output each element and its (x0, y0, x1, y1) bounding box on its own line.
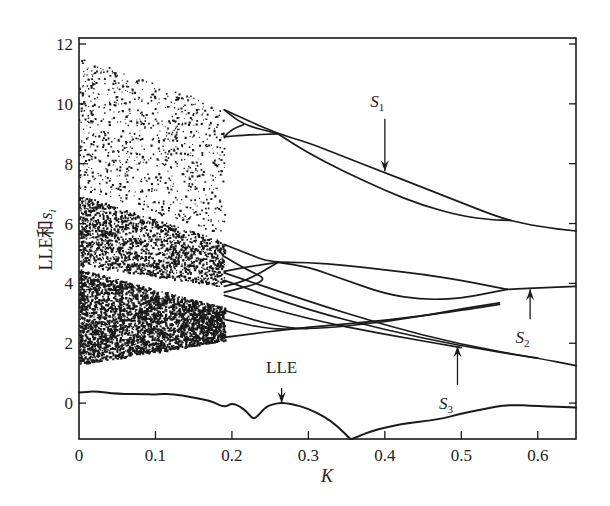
x-axis: 00.10.20.30.40.50.6 (75, 431, 549, 465)
y-axis-title: LLE和si (36, 209, 58, 270)
annotations: S1S2S3LLE (266, 92, 534, 415)
plot-frame (79, 38, 576, 439)
y-tick-label: 6 (65, 215, 74, 234)
annotation-label: S2 (515, 328, 529, 349)
chaos-points (79, 59, 227, 364)
curve-s1-inner-loop-lower (224, 134, 277, 137)
x-tick-label: 0.1 (145, 446, 166, 465)
svg-text:LLE和si: LLE和si (36, 209, 58, 270)
curve-s2-upper-branch (224, 245, 507, 290)
y-tick-label: 4 (65, 274, 74, 293)
y-tick-label: 2 (65, 334, 74, 353)
annotation-label: S3 (439, 394, 454, 415)
x-tick-label: 0.6 (527, 446, 548, 465)
y-axis-title-var: s (36, 213, 56, 220)
x-tick-label: 0.3 (298, 446, 319, 465)
y-axis: 024681012 (56, 35, 576, 413)
x-axis-title: K (320, 466, 334, 486)
y-tick-label: 0 (65, 394, 74, 413)
annotation-label: S1 (370, 92, 384, 113)
y-tick-label: 12 (56, 35, 73, 54)
y-axis-title-main: LLE和 (36, 220, 56, 271)
curve-s2-merged (507, 286, 576, 289)
curve-lle-right (352, 405, 576, 439)
bifurcation-curves (79, 110, 576, 439)
annotation-label: LLE (266, 358, 297, 377)
bifurcation-chart: S1S2S3LLE 00.10.20.30.40.50.6 024681012 … (0, 0, 610, 506)
chaotic-scatter-region (79, 59, 227, 364)
x-tick-label: 0.5 (451, 446, 472, 465)
curve-s1-merged (511, 221, 576, 232)
curve-lle (79, 392, 350, 439)
curve-s1-upper-branch (224, 110, 511, 221)
x-tick-label: 0.4 (374, 446, 396, 465)
y-tick-label: 8 (65, 155, 74, 174)
y-axis-title-sub: i (46, 209, 58, 212)
y-tick-label: 10 (56, 95, 73, 114)
x-tick-label: 0 (75, 446, 84, 465)
curve-s2-lower-branch (278, 262, 507, 299)
x-tick-label: 0.2 (221, 446, 242, 465)
